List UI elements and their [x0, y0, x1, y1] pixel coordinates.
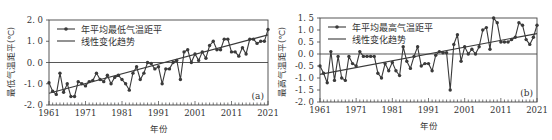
- legend-label-anomaly: 年平均最高气温距平: [352, 22, 433, 33]
- data-point: [266, 28, 269, 31]
- data-point: [175, 59, 178, 62]
- data-point: [485, 26, 488, 29]
- data-point: [496, 21, 499, 24]
- data-point: [412, 55, 415, 58]
- data-point: [201, 50, 204, 53]
- data-point: [226, 37, 229, 40]
- data-point: [438, 50, 441, 53]
- data-point: [47, 81, 50, 84]
- data-point: [517, 21, 520, 24]
- y-tick-label: -1. 0: [24, 79, 43, 89]
- x-axis-label: 年份: [150, 124, 168, 134]
- x-tick-label: 1991: [418, 105, 440, 115]
- data-point: [131, 71, 134, 74]
- data-point: [362, 55, 365, 58]
- data-point: [347, 55, 350, 58]
- data-point: [503, 40, 506, 43]
- data-point: [398, 74, 401, 77]
- y-tick-label: 1. 0: [298, 25, 314, 35]
- data-point: [340, 76, 343, 79]
- data-point: [233, 50, 236, 53]
- data-point: [514, 36, 517, 39]
- x-tick-label: 1971: [345, 105, 367, 115]
- x-tick-label: 2011: [490, 105, 512, 115]
- data-point: [535, 24, 538, 27]
- data-point: [456, 33, 459, 36]
- data-point: [470, 48, 473, 51]
- x-tick-label: 1961: [38, 108, 60, 118]
- data-point: [263, 40, 266, 43]
- y-tick-label: 1. 5: [298, 13, 314, 23]
- data-point: [333, 79, 336, 82]
- data-point: [255, 42, 258, 45]
- data-point: [186, 48, 189, 51]
- y-axis-label: 最低气温距平(℃): [6, 27, 16, 97]
- data-point: [77, 80, 80, 83]
- data-point: [146, 61, 149, 64]
- data-point: [452, 43, 455, 46]
- data-point: [223, 37, 226, 40]
- data-point: [212, 40, 215, 43]
- data-point: [474, 52, 477, 55]
- data-point: [58, 71, 61, 74]
- data-point: [120, 78, 123, 81]
- data-point: [499, 40, 502, 43]
- data-point: [142, 71, 145, 74]
- data-point: [524, 38, 527, 41]
- data-point: [481, 28, 484, 31]
- data-point: [510, 38, 513, 41]
- x-tick-label: 1961: [309, 105, 331, 115]
- legend-label-trend: 线性变化趋势: [352, 34, 406, 45]
- x-axis-label: 年份: [420, 121, 438, 131]
- data-point: [139, 78, 142, 81]
- data-point: [326, 81, 329, 84]
- data-point: [354, 64, 357, 67]
- data-point: [358, 50, 361, 53]
- data-point: [87, 80, 90, 83]
- data-point: [336, 55, 339, 58]
- x-tick-label: 2001: [184, 108, 206, 118]
- data-point: [241, 46, 244, 49]
- chart-panel-b: 1. 51. 00. 50. 0-0. 5-1. 0-1. 5-2. 01961…: [277, 13, 548, 131]
- data-point: [409, 67, 412, 70]
- data-point: [153, 67, 156, 70]
- data-point: [416, 45, 419, 48]
- data-point: [351, 62, 354, 65]
- data-point: [383, 62, 386, 65]
- data-point: [204, 57, 207, 60]
- data-point: [117, 74, 120, 77]
- legend-label-anomaly: 年平均最低气温距平: [81, 24, 162, 35]
- data-point: [401, 45, 404, 48]
- data-point: [430, 69, 433, 72]
- panel-label: (a): [252, 91, 264, 101]
- x-tick-label: 1971: [75, 108, 97, 118]
- x-tick-label: 1991: [148, 108, 170, 118]
- data-point: [488, 48, 491, 51]
- data-point: [441, 51, 444, 54]
- data-point: [434, 54, 437, 57]
- data-point: [532, 36, 535, 39]
- data-point: [197, 59, 200, 62]
- y-tick-label: 0. 5: [298, 37, 314, 47]
- data-point: [128, 88, 131, 91]
- data-point: [106, 74, 109, 77]
- data-point: [318, 64, 321, 67]
- data-point: [477, 45, 480, 48]
- data-point: [102, 80, 105, 83]
- x-tick-label: 2001: [454, 105, 476, 115]
- data-point: [164, 67, 167, 70]
- data-point: [506, 40, 509, 43]
- data-point: [237, 54, 240, 57]
- data-point: [135, 65, 138, 68]
- data-point: [150, 62, 153, 65]
- data-point: [252, 37, 255, 40]
- data-point: [113, 76, 116, 79]
- data-point: [376, 72, 379, 75]
- data-point: [521, 24, 524, 27]
- chart-panel-a: 2. 01. 00. 0-1. 0-2. 0196119711981199120…: [6, 15, 279, 134]
- data-point: [84, 84, 87, 87]
- data-point: [528, 43, 531, 46]
- chart-figure: 2. 01. 00. 0-1. 0-2. 0196119711981199120…: [0, 0, 552, 140]
- data-point: [387, 69, 390, 72]
- data-point: [219, 48, 222, 51]
